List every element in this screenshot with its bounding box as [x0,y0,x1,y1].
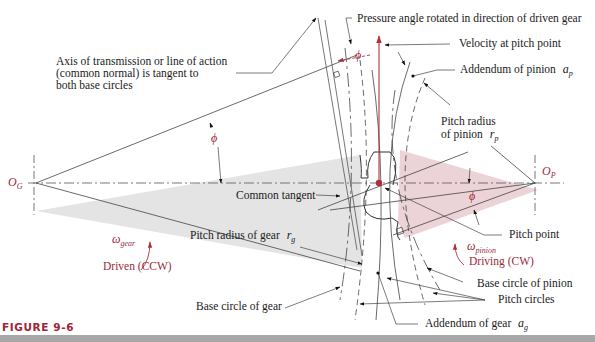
label-pitch-point: Pitch point [509,228,560,241]
label-omega-gear: ωgear [112,232,136,248]
label-base-circle-pinion: Base circle of pinion [477,277,573,290]
leader-addendum-pinion [413,70,455,76]
label-op: OP [542,164,556,180]
phi-arrow-pinion-bottom [474,210,479,225]
label-pressure-angle: Pressure angle rotated in direction of d… [357,12,582,25]
leader-axis-of-transmission [236,18,316,73]
label-velocity-pitch-point: Velocity at pitch point [459,37,562,50]
addendum-pinion-dot [411,74,414,77]
gear-mesh-diagram: Axis of transmission or line of action (… [0,0,595,342]
pinion-radius-leader [491,146,535,183]
pinion-tooth-profile [364,185,400,240]
phi-pinion: ϕ [469,189,475,203]
label-pitch-radius-pinion-2: of pinion rp [441,127,498,143]
leader-base-gear [285,287,340,308]
omega-pinion-arrow [455,244,464,265]
addendum-circle-gear [372,70,381,320]
leader-pitch-radius-pinion [424,83,450,105]
label-driving: Driving (CW) [469,255,534,268]
label-pitch-circles: Pitch circles [498,293,555,305]
phi-arrow-gear-top [210,123,212,128]
addendum-gear-dot [376,271,379,274]
label-common-tangent: Common tangent [236,189,316,202]
label-axis-of-transmission-3: both base circles [56,79,133,91]
label-axis-of-transmission-1: Axis of transmission or line of action [56,55,227,67]
leader-addendum-pinion-arrow [398,52,405,65]
right-angle-top [333,71,339,77]
leader-pressure-angle [346,18,352,44]
leader-pitch-circles-a [387,278,485,300]
pitch-point [376,180,382,186]
leader-base-pinion [427,268,463,282]
label-pitch-radius-pinion-1: Pitch radius [441,115,496,127]
label-driven: Driven (CCW) [103,260,172,273]
figure-rule [0,335,595,342]
label-og: OG [8,175,23,191]
phi-arrow-gear-bottom [218,147,221,183]
gear-sector [36,155,362,268]
label-base-circle-gear: Base circle of gear [196,300,282,313]
figure-caption: FIGURE 9-6 [2,321,74,333]
label-addendum-pinion: Addendum of pinion ap [460,62,573,78]
phi-gear: ϕ [211,131,217,145]
phi-pressure: ϕ [355,48,361,62]
label-omega-pinion: ωpinion [467,239,496,255]
pinion-sector [398,150,538,238]
leader-velocity [385,44,450,45]
leader-pitch-circles-gear [360,300,485,304]
label-addendum-gear: Addendum of gear ag [425,316,528,332]
